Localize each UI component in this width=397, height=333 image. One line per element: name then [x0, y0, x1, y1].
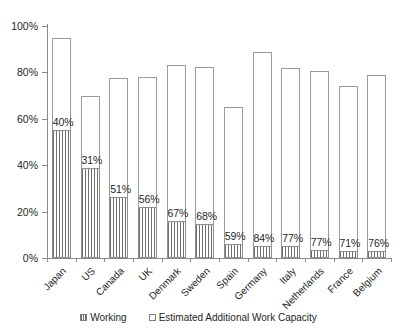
x-axis-tick [305, 258, 306, 262]
chart-legend: WorkingEstimated Additional Work Capacit… [0, 311, 397, 323]
bar-value-label: 59% [225, 231, 246, 242]
bar-segment-working[interactable] [167, 221, 186, 258]
bar-segment-working[interactable] [224, 244, 243, 258]
y-axis-tick-label: 40% [17, 160, 38, 171]
legend-label: Working [90, 312, 127, 323]
y-axis-tick-label: 20% [17, 207, 38, 218]
bar-value-label: 71% [340, 238, 361, 249]
bar-value-label: 76% [368, 238, 389, 249]
bar-segment-working[interactable] [138, 207, 157, 258]
legend-swatch-working-icon [80, 314, 87, 321]
y-axis-tick-label: 100% [11, 21, 38, 32]
bar-segment-additional-capacity[interactable] [253, 52, 272, 258]
chart-container: 0%20%40%60%80%100% 40%31%51%56%67%68%59%… [0, 0, 397, 333]
bar-segment-working[interactable] [367, 251, 386, 258]
x-axis-tick [248, 258, 249, 262]
x-axis-tick [104, 258, 105, 262]
bar-segment-working[interactable] [339, 251, 358, 258]
bar-group[interactable] [367, 26, 386, 258]
plot-area: 40%31%51%56%67%68%59%84%77%77%71%76% [47, 26, 391, 258]
bar-segment-additional-capacity[interactable] [339, 86, 358, 258]
bar-segment-working[interactable] [253, 246, 272, 258]
bar-segment-additional-capacity[interactable] [281, 68, 300, 258]
x-axis-tick [190, 258, 191, 262]
bar-group[interactable] [195, 26, 214, 258]
x-axis-tick [47, 258, 48, 262]
x-axis-tick [391, 258, 392, 262]
bar-segment-working[interactable] [52, 130, 71, 258]
bar-group[interactable] [281, 26, 300, 258]
bar-group[interactable] [224, 26, 243, 258]
bar-segment-working[interactable] [195, 224, 214, 258]
bar-group[interactable] [339, 26, 358, 258]
bar-segment-working[interactable] [310, 250, 329, 258]
bar-value-label: 31% [82, 155, 103, 166]
legend-label: Estimated Additional Work Capacity [159, 312, 317, 323]
legend-entry[interactable]: Estimated Additional Work Capacity [149, 311, 317, 323]
bar-value-label: 56% [139, 194, 160, 205]
bar-segment-working[interactable] [281, 246, 300, 258]
bar-segment-additional-capacity[interactable] [367, 75, 386, 258]
y-axis-tick-label: 60% [17, 114, 38, 125]
bar-value-label: 77% [282, 233, 303, 244]
bar-group[interactable] [81, 26, 100, 258]
bar-group[interactable] [138, 26, 157, 258]
x-axis-tick [76, 258, 77, 262]
bar-group[interactable] [167, 26, 186, 258]
bar-group[interactable] [253, 26, 272, 258]
y-axis-tick-label: 0% [23, 253, 38, 264]
y-axis-tick-label: 80% [17, 67, 38, 78]
bar-value-label: 51% [110, 184, 131, 195]
bar-group[interactable] [109, 26, 128, 258]
x-axis-tick [334, 258, 335, 262]
bar-segment-working[interactable] [81, 168, 100, 258]
bar-value-label: 40% [53, 117, 74, 128]
x-axis-tick [133, 258, 134, 262]
bar-value-label: 67% [168, 208, 189, 219]
bar-segment-working[interactable] [109, 197, 128, 258]
bar-group[interactable] [52, 26, 71, 258]
bar-value-label: 84% [254, 233, 275, 244]
x-axis-tick [276, 258, 277, 262]
bar-value-label: 68% [196, 211, 217, 222]
legend-entry[interactable]: Working [80, 311, 127, 323]
x-axis-tick [219, 258, 220, 262]
x-axis-tick [362, 258, 363, 262]
bar-group[interactable] [310, 26, 329, 258]
x-axis-tick [162, 258, 163, 262]
legend-swatch-capacity-icon [149, 314, 156, 321]
bar-segment-additional-capacity[interactable] [310, 71, 329, 258]
bar-value-label: 77% [311, 237, 332, 248]
